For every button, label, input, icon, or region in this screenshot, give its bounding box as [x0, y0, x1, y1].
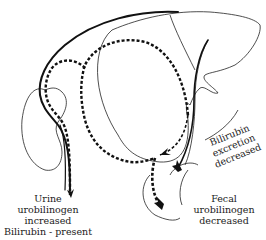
urine-label-line3: increased [2, 215, 94, 226]
dashed-flow-lines [46, 40, 188, 205]
urine-label-line4: Bilirubin - present [2, 226, 94, 237]
urine-label-line1: Urine [2, 193, 94, 204]
urine-label: Urine urobilinogen increased Bilirubin -… [2, 193, 94, 237]
urine-label-line2: urobilinogen [2, 204, 94, 215]
fecal-label-line2: urobilinogen [188, 204, 260, 215]
fecal-label: Fecal urobilinogen decreased [188, 193, 260, 226]
arrow-branch-icon [160, 148, 171, 155]
solid-flow-lines [40, 12, 208, 190]
fecal-label-line1: Fecal [188, 193, 260, 204]
fecal-label-line3: decreased [188, 215, 260, 226]
